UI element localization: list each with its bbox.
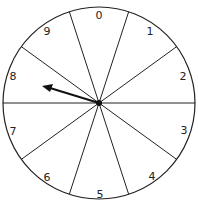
spinner-diagram: 0 1 2 3 4 5 6 7 8 9 (0, 0, 198, 205)
center-pivot (96, 100, 102, 106)
sector-label-6: 6 (44, 171, 51, 184)
sector-label-1: 1 (147, 25, 154, 38)
sector-label-3: 3 (181, 124, 188, 137)
sector-label-4: 4 (149, 170, 156, 183)
sector-label-5: 5 (97, 188, 104, 201)
sector-label-9: 9 (44, 25, 51, 38)
sector-label-2: 2 (180, 70, 187, 83)
sector-label-7: 7 (10, 125, 17, 138)
sector-label-0: 0 (96, 9, 103, 22)
sector-label-8: 8 (10, 70, 17, 83)
